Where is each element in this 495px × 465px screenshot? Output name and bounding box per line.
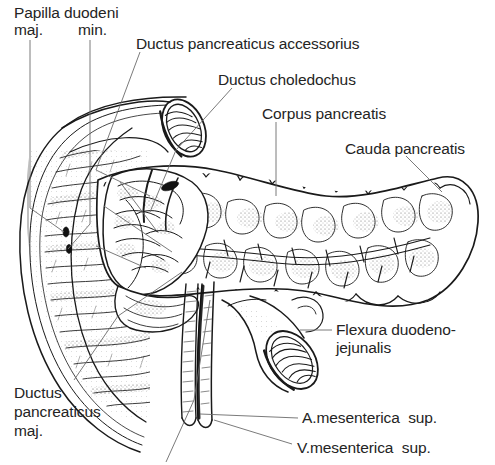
label-ductus-choledochus: Ductus choledochus [218, 71, 356, 88]
anatomical-figure: Papilla duodeni maj. min. Ductus pancrea… [0, 0, 495, 465]
label-a-mesenterica-sup: A.mesenterica sup. [302, 409, 437, 426]
label-ductus-pancreaticus-accessorius: Ductus pancreaticus accessorius [136, 35, 359, 52]
label-flexura-duodenojejunalis-line1: Flexura duodeno- [336, 321, 456, 338]
label-cauda-pancreatis: Cauda pancreatis [345, 140, 465, 157]
duodenum-cut-end [154, 92, 215, 163]
label-ductus-pancreaticus-maj-line1: Ductus [14, 384, 62, 401]
label-ductus-pancreaticus-maj-line2: pancreaticus [14, 403, 101, 420]
label-v-mesenterica-sup: V.mesenterica sup. [297, 439, 431, 456]
label-flexura-duodenojejunalis-line2: jejunalis [336, 339, 391, 356]
label-papilla-duodeni: Papilla duodeni [14, 4, 119, 21]
label-corpus-pancreatis: Corpus pancreatis [262, 105, 386, 122]
label-ductus-pancreaticus-maj-line3: maj. [14, 422, 43, 439]
label-papilla-maj: maj. [14, 21, 43, 38]
label-papilla-min: min. [78, 21, 107, 38]
illustration-canvas [0, 0, 495, 465]
